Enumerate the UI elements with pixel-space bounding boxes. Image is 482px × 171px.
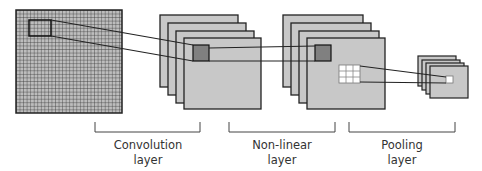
conv-layer-stack [160,15,261,109]
nonlinear-layer-stack [283,15,385,109]
nonlinear-feature-cell [315,45,331,61]
pooled-cell [446,76,453,83]
pooling-layer-label: Pooling layer [351,138,453,168]
conv-bracket [95,122,200,132]
layer-brackets [95,122,455,132]
nonlinear-bracket [229,122,335,132]
conv-layer-label: Convolution layer [97,138,199,168]
pooling-bracket [349,122,455,132]
pooling-window [339,65,360,83]
conv-feature-cell [193,45,209,61]
input-image [16,10,122,113]
nonlinear-layer-label: Non-linear layer [231,138,333,168]
